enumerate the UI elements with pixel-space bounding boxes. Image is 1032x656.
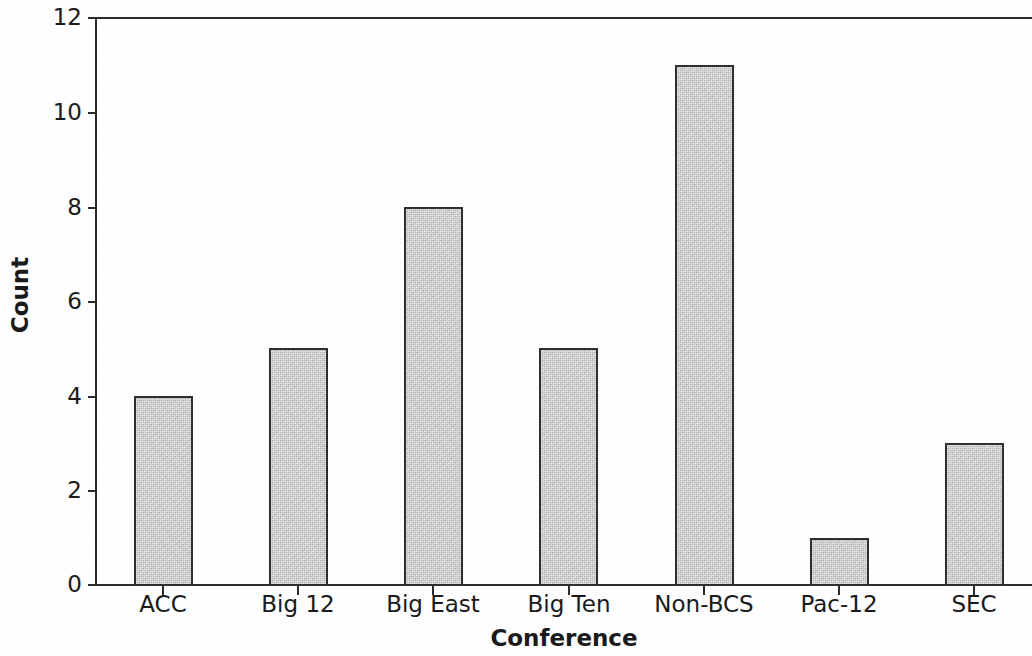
y-tick-label: 8: [34, 196, 82, 219]
plot-top-border: [95, 17, 1032, 19]
y-tick-mark: [88, 584, 96, 586]
y-tick-label: 6: [34, 290, 82, 313]
x-axis-title: Conference: [0, 625, 1032, 651]
bar-pac-12[interactable]: [810, 538, 869, 586]
x-axis-title-text: Conference: [490, 625, 637, 651]
bar-non-bcs[interactable]: [675, 65, 734, 586]
y-tick-label: 0: [34, 573, 82, 596]
y-tick-mark: [88, 112, 96, 114]
y-tick-mark: [88, 17, 96, 19]
bar-big-12[interactable]: [269, 348, 328, 586]
y-axis-title: Count: [8, 245, 32, 345]
y-tick-mark: [88, 396, 96, 398]
y-tick-label: 2: [34, 479, 82, 502]
bar-sec[interactable]: [945, 443, 1004, 586]
y-tick-mark: [88, 207, 96, 209]
y-tick-label: 12: [34, 6, 82, 29]
y-tick-mark: [88, 301, 96, 303]
y-tick-label: 4: [34, 385, 82, 408]
x-tick-label-sec: SEC: [894, 593, 1032, 616]
bar-big-ten[interactable]: [539, 348, 598, 586]
y-tick-label: 10: [34, 101, 82, 124]
bar-big-east[interactable]: [404, 207, 463, 586]
bar-chart: 12 10 8 6 4 2 0 ACC Big 12 Big East Big …: [0, 0, 1032, 656]
y-tick-mark: [88, 490, 96, 492]
bar-acc[interactable]: [134, 396, 193, 586]
